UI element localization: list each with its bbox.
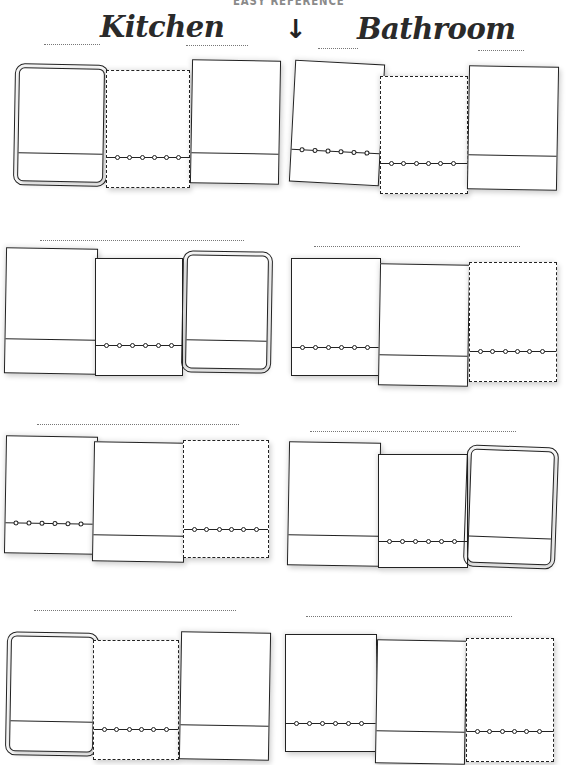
kitchen-row-3-label-line[interactable] [37,424,239,425]
towel-plain-stitched[interactable] [289,60,385,187]
towel-plain-stitched[interactable] [291,258,381,376]
towel-plain-band[interactable] [4,247,98,375]
towel-framed[interactable] [17,67,105,182]
towel-plain-band[interactable] [190,59,281,185]
towel-framed[interactable] [9,635,95,752]
bathroom-row-2-label-line[interactable] [314,246,520,247]
towel-plain-stitched[interactable] [285,634,377,752]
kitchen-title: Kitchen [100,10,224,44]
towel-framed[interactable] [185,254,269,369]
bathroom-label-line-right[interactable] [478,50,524,51]
towel-plain-stitched[interactable] [378,454,468,568]
towel-wavy-stitched[interactable] [93,640,179,760]
towel-wavy-stitched[interactable] [106,70,190,188]
towel-plain-band[interactable] [179,631,271,761]
bathroom-row-3-label-line[interactable] [310,431,516,432]
towel-framed[interactable] [467,449,555,566]
towel-wavy-stitched[interactable] [466,638,554,762]
bathroom-label-line-left[interactable] [318,48,358,49]
towel-plain-stitched[interactable] [4,435,98,555]
easy-reference-label: EASY REFERENCE [233,0,345,8]
towel-plain-band[interactable] [287,441,381,567]
towel-wavy-stitched[interactable] [183,440,269,558]
down-arrow-icon: ↓ [285,14,307,44]
kitchen-row-4-label-line[interactable] [34,610,236,611]
kitchen-label-line-left[interactable] [44,44,100,45]
towel-plain-band[interactable] [378,263,470,387]
towel-wavy-stitched[interactable] [469,262,557,382]
towel-plain-band[interactable] [375,639,467,765]
bathroom-title: Bathroom [357,12,515,46]
towel-plain-band[interactable] [467,65,559,191]
towel-plain-stitched[interactable] [95,258,183,376]
kitchen-row-2-label-line[interactable] [40,240,244,241]
kitchen-label-line-right[interactable] [186,45,248,46]
towel-wavy-stitched[interactable] [380,76,468,194]
bathroom-row-4-label-line[interactable] [306,616,512,617]
towel-plain-band[interactable] [92,441,186,563]
